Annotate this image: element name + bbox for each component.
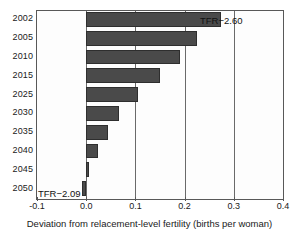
bar-2015 [86,68,160,83]
x-tick-0.1: 0.1 [115,201,155,211]
bar-2045 [86,162,88,177]
bar-row [37,143,283,162]
bar-2010 [86,50,179,65]
y-tick-2045: 2045 [0,164,33,174]
y-tick-2010: 2010 [0,51,33,61]
bar-row [37,124,283,143]
bar-row [37,161,283,180]
x-tick--0.1: -0.1 [17,201,57,211]
x-tick-0.2: 0.2 [165,201,205,211]
bar-2040 [86,144,97,159]
y-tick-2030: 2030 [0,107,33,117]
x-axis-title: Deviation from relacement-level fertilit… [0,218,299,229]
x-axis-tick-labels: -0.10.00.10.20.30.4 [36,201,284,215]
x-tick-0.0: 0.0 [66,201,106,211]
fertility-deviation-bar-chart: 2002200520102015202520302035204020452050… [0,0,299,237]
plot-area [37,11,283,199]
bar-2025 [86,87,138,102]
bar-row [37,30,283,49]
x-tick-0.3: 0.3 [214,201,254,211]
y-tick-2005: 2005 [0,32,33,42]
y-axis-tick-labels: 2002200520102015202520302035204020452050 [0,10,33,200]
x-tick-0.4: 0.4 [263,201,299,211]
plot-frame [36,10,284,200]
annotation-tfr-top: TFR−2.60 [200,15,243,26]
y-tick-2050: 2050 [0,183,33,193]
y-tick-2040: 2040 [0,145,33,155]
y-tick-2015: 2015 [0,70,33,80]
bar-row [37,86,283,105]
y-tick-2035: 2035 [0,126,33,136]
y-tick-2025: 2025 [0,89,33,99]
y-tick-2002: 2002 [0,13,33,23]
bar-2050 [82,181,86,196]
bar-row [37,49,283,68]
bar-row [37,105,283,124]
bar-2005 [86,31,197,46]
bar-2035 [86,125,108,140]
bar-row [37,67,283,86]
annotation-tfr-bottom: TFR−2.09 [38,188,81,199]
bar-row [37,11,283,30]
bar-2030 [86,106,119,121]
